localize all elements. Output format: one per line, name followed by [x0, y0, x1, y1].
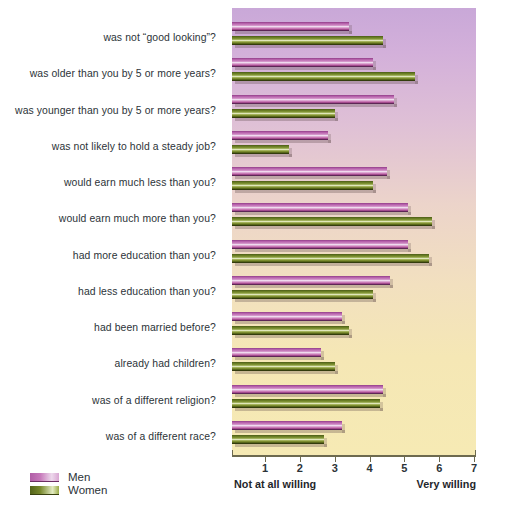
category-label: was of a different religion? [0, 396, 216, 406]
bar-body [232, 145, 289, 154]
x-axis-tick [439, 455, 440, 462]
bar-men [232, 95, 394, 107]
bar-body [232, 254, 429, 263]
category-label: was not likely to hold a steady job? [0, 142, 216, 152]
bar-body [232, 312, 342, 321]
bar-men [232, 22, 349, 34]
x-axis-tick-label: 7 [464, 463, 484, 474]
x-axis-tick [474, 455, 475, 462]
bar-body [232, 72, 415, 81]
bar-drop-shadow [235, 321, 345, 324]
bar-men [232, 312, 342, 324]
x-axis-tick-label: 3 [325, 463, 345, 474]
bar-body [232, 276, 390, 285]
bar-body [232, 326, 349, 335]
x-axis-tick-label: 4 [360, 463, 380, 474]
bar-body [232, 131, 328, 140]
x-axis-tick [265, 455, 266, 462]
legend-item-men: Men [30, 471, 107, 484]
category-label: would earn much more than you? [0, 214, 216, 224]
bar-drop-shadow [235, 249, 411, 252]
bar-drop-shadow [235, 299, 376, 302]
bar-drop-shadow [235, 285, 393, 288]
bar-women [232, 217, 432, 229]
bar-drop-shadow [235, 263, 432, 266]
bar-men [232, 58, 373, 70]
bar-women [232, 109, 335, 121]
bar-drop-shadow [235, 444, 327, 447]
category-label: had less education than you? [0, 287, 216, 297]
bar-body [232, 109, 335, 118]
bar-body [232, 421, 342, 430]
category-label: was older than you by 5 or more years? [0, 69, 216, 79]
legend-swatch-women [30, 486, 59, 495]
bar-drop-shadow [235, 226, 435, 229]
category-label: had been married before? [0, 323, 216, 333]
legend-label: Women [68, 485, 107, 497]
bar-body [232, 58, 373, 67]
bar-drop-shadow [235, 176, 390, 179]
x-axis-tick-label: 2 [290, 463, 310, 474]
bar-drop-shadow [235, 408, 383, 411]
x-axis-tick [404, 455, 405, 462]
bar-body [232, 399, 380, 408]
category-label: was younger than you by 5 or more years? [0, 106, 216, 116]
category-label: would earn much less than you? [0, 178, 216, 188]
bar-body [232, 167, 387, 176]
legend-item-women: Women [30, 484, 107, 497]
axis-anchor-low: Not at all willing [234, 479, 316, 490]
category-label: was of a different race? [0, 432, 216, 442]
x-axis-tick [335, 455, 336, 462]
x-axis-tick-label: 6 [429, 463, 449, 474]
bar-drop-shadow [235, 140, 331, 143]
bar-drop-shadow [235, 31, 352, 34]
bar-men [232, 240, 408, 252]
bar-women [232, 435, 324, 447]
bar-men [232, 203, 408, 215]
bar-women [232, 181, 373, 193]
bar-body [232, 203, 408, 212]
bar-men [232, 276, 390, 288]
bar-men [232, 131, 328, 143]
bar-men [232, 385, 383, 397]
bar-group-container [232, 20, 476, 455]
bar-body [232, 362, 335, 371]
bar-body [232, 290, 373, 299]
bar-men [232, 421, 342, 433]
legend-label: Men [68, 472, 90, 484]
category-label: had more education than you? [0, 251, 216, 261]
bar-drop-shadow [235, 45, 386, 48]
plot-area [232, 8, 476, 455]
bar-body [232, 240, 408, 249]
bar-drop-shadow [235, 154, 292, 157]
bar-drop-shadow [235, 371, 338, 374]
bar-drop-shadow [235, 394, 386, 397]
bar-women [232, 36, 383, 48]
bar-women [232, 399, 380, 411]
bar-women [232, 145, 289, 157]
bar-women [232, 326, 349, 338]
bar-body [232, 435, 324, 444]
x-axis-tick-label: 5 [394, 463, 414, 474]
bar-body [232, 348, 321, 357]
bar-women [232, 72, 415, 84]
bar-body [232, 181, 373, 190]
bar-drop-shadow [235, 335, 352, 338]
bar-drop-shadow [235, 81, 418, 84]
bar-drop-shadow [235, 190, 376, 193]
chart-legend: MenWomen [30, 471, 107, 497]
x-axis-left-endcap [232, 450, 233, 457]
chart-figure: was not “good looking”?was older than yo… [0, 0, 507, 522]
bar-drop-shadow [235, 357, 324, 360]
bar-men [232, 167, 387, 179]
bar-men [232, 348, 321, 360]
bar-drop-shadow [235, 118, 338, 121]
bar-women [232, 254, 429, 266]
bar-body [232, 217, 432, 226]
axis-anchor-high: Very willing [417, 479, 476, 490]
x-axis-tick-label: 1 [255, 463, 275, 474]
bar-body [232, 22, 349, 31]
category-label: already had children? [0, 359, 216, 369]
category-label-column: was not “good looking”?was older than yo… [0, 20, 224, 455]
bar-body [232, 95, 394, 104]
